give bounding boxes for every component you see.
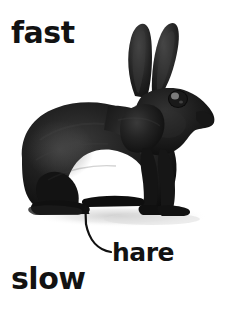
front-legs: [139, 148, 191, 216]
label-slow: slow: [11, 264, 85, 294]
flashcard-root: fast hare slow: [0, 0, 227, 319]
label-hare: hare: [112, 240, 174, 265]
label-fast: fast: [11, 18, 75, 48]
eye: [168, 90, 188, 108]
tail: [82, 196, 145, 207]
